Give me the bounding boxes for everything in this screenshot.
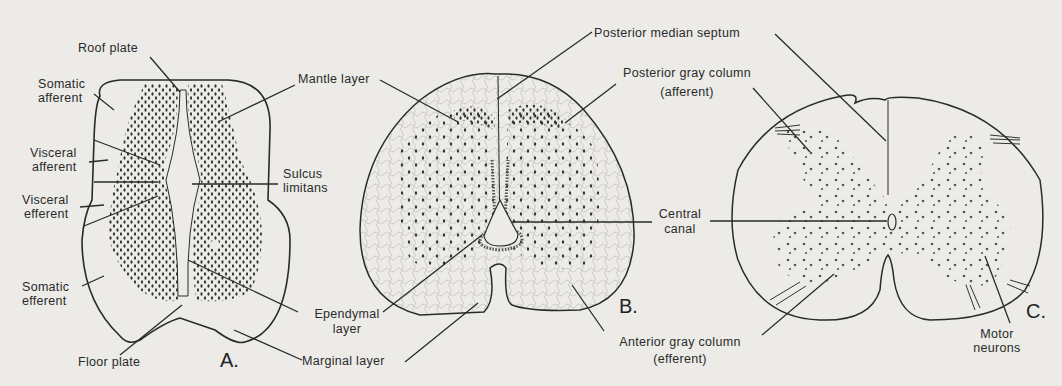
label-visceral-afferent-line2: afferent xyxy=(32,160,77,174)
label-visceral-afferent-line1: Visceral xyxy=(30,146,77,160)
label-anterior-gray-column-line2: (efferent) xyxy=(600,352,760,366)
panel-a-neural-tube xyxy=(80,57,302,360)
label-posterior-gray-column-line1: Posterior gray column xyxy=(602,66,772,80)
label-mantle-layer-a: Mantle layer xyxy=(298,72,370,86)
label-central-canal-line1: Central xyxy=(650,207,710,221)
label-marginal-layer: Marginal layer xyxy=(302,354,385,368)
label-floor-plate: Floor plate xyxy=(78,355,140,369)
label-motor-neurons-line1: Motor xyxy=(962,327,1032,341)
label-visceral-efferent-line2: efferent xyxy=(24,207,69,221)
label-ependymal-layer-line2: layer xyxy=(302,322,392,336)
label-visceral-efferent-line1: Visceral xyxy=(22,193,69,207)
panel-c-letter: C. xyxy=(1026,300,1046,323)
label-central-canal-line2: canal xyxy=(650,222,710,236)
label-roof-plate: Roof plate xyxy=(78,41,138,55)
label-somatic-efferent-line2: efferent xyxy=(22,294,67,308)
label-posterior-median-septum: Posterior median septum xyxy=(594,26,740,40)
spinal-cord-development-figure: Roof plate Somatic afferent Mantle layer… xyxy=(0,0,1062,386)
label-ependymal-layer-line1: Ependymal xyxy=(302,307,392,321)
label-somatic-afferent-line2: afferent xyxy=(38,91,83,105)
label-posterior-gray-column-line2: (afferent) xyxy=(602,85,772,99)
label-somatic-afferent-line1: Somatic xyxy=(38,77,85,91)
label-sulcus-limitans-line1: Sulcus xyxy=(283,167,322,181)
label-somatic-efferent-line1: Somatic xyxy=(22,280,69,294)
panel-b-letter: B. xyxy=(619,295,638,318)
panel-b-spinal-cord xyxy=(360,32,652,362)
label-sulcus-limitans-line2: limitans xyxy=(283,181,328,195)
label-anterior-gray-column-line1: Anterior gray column xyxy=(600,335,760,349)
diagram-drawing xyxy=(0,0,1062,386)
panel-a-letter: A. xyxy=(220,349,239,372)
label-motor-neurons-line2: neurons xyxy=(962,341,1032,355)
